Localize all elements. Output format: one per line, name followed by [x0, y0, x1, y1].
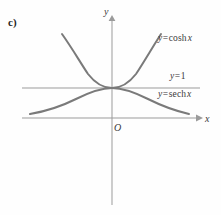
y-axis-arrowhead — [109, 15, 116, 21]
curve-label-asymptote: y=1 — [170, 71, 186, 81]
curve-label-cosh: y=coshx — [158, 33, 192, 43]
sech-label-operator: = — [162, 89, 168, 99]
curve-label-sech: y=sechx — [158, 89, 191, 99]
y-axis-label: y — [104, 6, 108, 17]
cosh-label-operator: = — [162, 33, 168, 43]
sech-label-function: sech — [169, 89, 187, 99]
x-axis-label: x — [205, 113, 209, 124]
cosh-label-argument: x — [188, 33, 192, 43]
cosh-label-function: cosh — [169, 33, 188, 43]
origin-label: O — [114, 122, 121, 133]
figure-panel: c) y x O y=coshx y=1 y=sechx — [0, 0, 221, 215]
sech-label-argument: x — [187, 89, 191, 99]
part-label: c) — [8, 16, 17, 28]
x-axis-arrowhead — [196, 115, 203, 122]
asymptote-label-value: 1 — [181, 71, 186, 81]
